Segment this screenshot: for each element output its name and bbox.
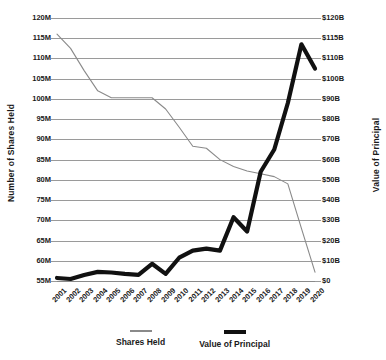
tick-mark-right [315, 99, 321, 100]
tick-mark-right [315, 38, 321, 39]
chart-container: Number of Shares Held Value of Principal… [0, 0, 386, 360]
y-tick-label-right: $10B [322, 257, 340, 265]
tick-mark-right [315, 160, 321, 161]
tick-mark-right [315, 119, 321, 120]
y-tick-label-right: $115B [322, 34, 344, 42]
line-shares-held [57, 34, 315, 272]
tick-mark-left [51, 281, 57, 282]
y-tick-label-left: 100M [32, 95, 51, 103]
tick-mark-right [315, 261, 321, 262]
y-tick-label-left: 105M [32, 75, 51, 83]
tick-mark-right [315, 58, 321, 59]
legend-label-shares-held: Shares Held [116, 337, 165, 347]
y-tick-label-left: 65M [36, 237, 51, 245]
tick-mark-right [315, 18, 321, 19]
plot-area: 120M115M110M105M100M95M90M85M80M75M70M65… [57, 18, 315, 281]
legend-item-value-of-principal: Value of Principal [199, 330, 270, 349]
y-tick-label-right: $40B [322, 196, 340, 204]
thick-line-swatch-icon [224, 330, 246, 334]
y-tick-label-right: $90B [322, 95, 340, 103]
y-tick-label-right: $50B [322, 176, 340, 184]
y-tick-label-right: $60B [322, 156, 340, 164]
y-axis-left-title: Number of Shares Held [6, 93, 16, 213]
tick-mark-right [315, 241, 321, 242]
y-tick-label-right: $120B [322, 14, 344, 22]
chart-legend: Shares Held Value of Principal [0, 330, 386, 349]
tick-mark-right [315, 180, 321, 181]
y-tick-label-right: $110B [322, 54, 344, 62]
y-tick-label-right: $80B [322, 115, 340, 123]
y-tick-label-right: $70B [322, 135, 340, 143]
y-tick-label-right: $30B [322, 216, 340, 224]
y-tick-label-right: $100B [322, 75, 344, 83]
y-tick-label-left: 70M [36, 216, 51, 224]
legend-label-value-of-principal: Value of Principal [199, 339, 270, 349]
y-tick-label-left: 85M [36, 156, 51, 164]
thin-line-swatch-icon [130, 330, 152, 332]
gridline [57, 281, 315, 282]
y-tick-label-right: $0 [322, 277, 330, 285]
y-tick-label-left: 110M [33, 54, 51, 62]
tick-mark-right [315, 281, 321, 282]
y-tick-label-right: $20B [322, 237, 340, 245]
series-layer [57, 18, 315, 281]
y-tick-label-left: 95M [36, 115, 51, 123]
legend-item-shares-held: Shares Held [116, 330, 165, 347]
tick-mark-right [315, 200, 321, 201]
y-axis-right-title: Value of Principal [371, 95, 381, 215]
x-axis-labels: 2001200220032004200520062007200820092010… [57, 284, 315, 324]
tick-mark-right [315, 139, 321, 140]
y-tick-label-left: 90M [36, 135, 51, 143]
line-value-of-principal [57, 44, 315, 279]
tick-mark-right [315, 220, 321, 221]
y-tick-label-left: 80M [36, 176, 51, 184]
y-tick-label-left: 115M [33, 34, 51, 42]
y-tick-label-left: 120M [32, 14, 51, 22]
tick-mark-right [315, 79, 321, 80]
y-tick-label-left: 55M [36, 277, 51, 285]
y-tick-label-left: 60M [36, 257, 51, 265]
y-tick-label-left: 75M [36, 196, 51, 204]
